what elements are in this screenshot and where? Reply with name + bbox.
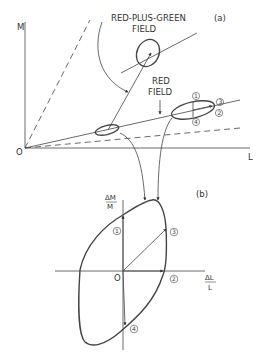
rpg-label-line1: RED-PLUS-GREEN — [111, 13, 186, 23]
diagram-canvas: M L O RED-PLUS-GREEN FIELD (a) RED FIELD… — [0, 0, 263, 364]
dl-label-num: ΔL — [205, 274, 214, 282]
vector-3 — [123, 229, 166, 271]
dm-label-den: M — [107, 203, 113, 211]
l-axis-label: L — [248, 152, 253, 162]
rpg-label-line2: FIELD — [132, 24, 157, 34]
marker-3-a: 3 — [219, 98, 223, 105]
marker-3-b: 3 — [172, 228, 176, 235]
dm-label-num: ΔM — [105, 194, 116, 202]
leader-red-to-b — [158, 118, 172, 200]
marker-1-b: 1 — [115, 227, 119, 234]
marker-4-a: 4 — [194, 118, 198, 125]
marker-1-a: 1 — [194, 92, 198, 99]
dl-label-den: L — [208, 284, 212, 292]
origin-label-b: O — [114, 273, 121, 283]
panel-b-tag: (b) — [196, 189, 208, 199]
panel-a — [25, 20, 250, 200]
origin-label-a: O — [16, 147, 23, 157]
rpg-ellipse — [132, 36, 164, 71]
leader-small-to-b — [120, 133, 145, 200]
panel-b-labels: (b) ΔM M ΔL L O 1 2 3 4 — [105, 189, 214, 332]
panel-a-labels: M L O RED-PLUS-GREEN FIELD (a) RED FIELD… — [16, 13, 253, 162]
rpg-vector-line — [108, 53, 151, 130]
leader-rpg — [98, 22, 128, 92]
red-ellipse-arrow-3 — [193, 106, 212, 110]
red-label-line2: FIELD — [148, 87, 173, 97]
dashed-steep-line — [25, 20, 90, 148]
red-label-line1: RED — [152, 76, 170, 86]
marker-2-b: 2 — [172, 275, 176, 282]
panel-a-tag: (a) — [214, 13, 226, 23]
marker-2-a: 2 — [218, 109, 222, 116]
marker-4-b: 4 — [132, 325, 136, 332]
m-axis-label: M — [17, 22, 24, 32]
